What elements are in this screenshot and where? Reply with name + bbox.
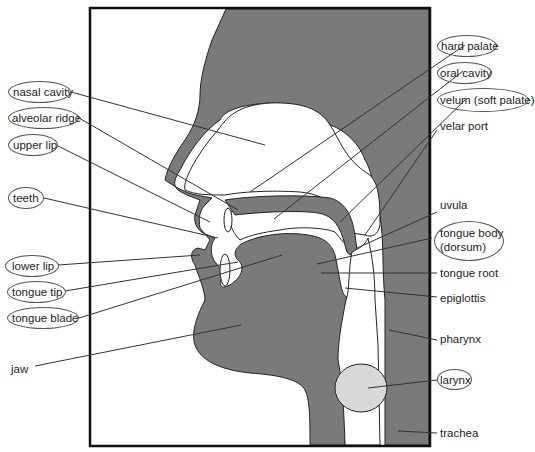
label-pharynx: pharynx: [440, 333, 481, 346]
label-tongue-body: tongue body: [440, 227, 503, 240]
label-teeth: teeth: [13, 192, 39, 205]
pharynx-airway: [338, 238, 380, 445]
label-tongue-tip: tongue tip: [12, 286, 63, 299]
label-alveolar-ridge: alveolar ridge: [12, 112, 81, 125]
label-oral-cavity: oral cavity: [440, 67, 492, 80]
label-epiglottis: epiglottis: [440, 292, 485, 305]
label-larynx: larynx: [440, 374, 471, 387]
label-nasal-cavity: nasal cavity: [13, 86, 73, 99]
label-velar-port: velar port: [440, 120, 488, 133]
label-jaw: jaw: [11, 363, 28, 376]
larynx-shape: [335, 364, 387, 412]
label-uvula: uvula: [440, 199, 468, 212]
label-tongue-body-dorsum: (dorsum): [440, 241, 486, 254]
label-tongue-root: tongue root: [440, 267, 498, 280]
label-upper-lip: upper lip: [13, 139, 57, 152]
label-hard-palate: hard palate: [441, 40, 499, 53]
label-trachea: trachea: [440, 427, 478, 440]
label-tongue-blade: tongue blade: [12, 312, 79, 325]
upper-tooth: [224, 208, 232, 232]
label-velum: velum (soft palate): [440, 94, 535, 107]
lower-tooth: [220, 254, 230, 286]
label-lower-lip: lower lip: [12, 260, 54, 273]
